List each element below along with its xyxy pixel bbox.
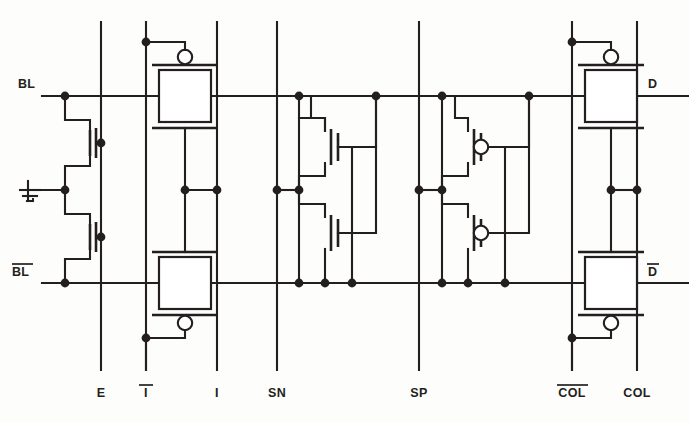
- iso-bot-channel-box: [159, 257, 211, 309]
- labels-layer: BL BL D D E I I SN SP COL COL: [12, 77, 659, 400]
- nmos-upper-top-lead: [311, 96, 325, 131]
- pmos-upper-top-lead: [455, 96, 468, 131]
- iso-top-gate-lead-Ibar: [146, 42, 185, 50]
- circuit-canvas: BL BL D D E I I SN SP COL COL: [0, 0, 689, 423]
- junction-dot: [438, 279, 447, 288]
- iso-bot-gate-lead-Ibar: [146, 330, 185, 370]
- junction-dot: [213, 186, 222, 195]
- label-SN: SN: [268, 386, 286, 400]
- label-COL: COL: [623, 386, 650, 400]
- nmos-latch-block: [273, 92, 381, 288]
- pmos-upper-drain-lead: [489, 147, 505, 283]
- label-D-bar: D: [648, 265, 657, 279]
- pmos-upper-gate-lead: [442, 163, 468, 190]
- junction-dot: [295, 92, 304, 101]
- junction-dot: [415, 186, 424, 195]
- label-SP: SP: [410, 386, 427, 400]
- junction-dot: [568, 38, 577, 47]
- col-bot-inversion-bubble: [604, 316, 618, 330]
- iso-bot-inversion-bubble: [178, 316, 192, 330]
- nmos-upper-drain-lead: [338, 147, 352, 283]
- eq-upper-drain-lead: [65, 96, 90, 134]
- junction-dot: [321, 279, 330, 288]
- nmos-lower-drain-lead: [338, 96, 376, 233]
- label-I-bar: I: [144, 386, 148, 400]
- label-D: D: [648, 77, 657, 91]
- schematic-figure: BL BL D D E I I SN SP COL COL: [0, 0, 689, 423]
- column-gate-bottom: [568, 190, 644, 370]
- isolation-gate-bottom: [142, 190, 218, 370]
- nmos-upper-source-stub: [299, 118, 325, 131]
- col-bot-gate-lead-COLbar: [572, 330, 611, 370]
- junction-dot: [438, 92, 447, 101]
- junction-dot: [142, 334, 151, 343]
- bit-lines: [42, 96, 689, 283]
- isolation-gate-top: [142, 38, 222, 195]
- junction-dot: [633, 186, 642, 195]
- label-BL-bar: BL: [12, 265, 29, 279]
- junction-dot: [142, 38, 151, 47]
- junction-dot: [501, 279, 510, 288]
- junction-dot: [295, 279, 304, 288]
- junction-dot: [97, 233, 106, 242]
- column-gate-top: [568, 38, 644, 195]
- pmos-upper-inversion-bubble: [474, 140, 488, 154]
- pmos-lower-inversion-bubble: [474, 226, 488, 240]
- col-bot-channel-box: [585, 257, 637, 309]
- junction-dot: [273, 186, 282, 195]
- junction-dot: [61, 92, 70, 101]
- junction-dot: [61, 279, 70, 288]
- junction-dot: [348, 279, 357, 288]
- nmos-upper-gate-lead: [299, 163, 325, 190]
- eq-upper-source-lead: [65, 152, 90, 190]
- pmos-lower-gate-lead: [442, 190, 468, 217]
- label-COL-bar: COL: [558, 386, 585, 400]
- label-BL: BL: [18, 77, 35, 91]
- pmos-lower-drain-lead: [489, 96, 529, 233]
- pmos-upper-bl-link: [489, 96, 529, 147]
- junction-dot: [568, 334, 577, 343]
- iso-top-inversion-bubble: [178, 50, 192, 64]
- label-E: E: [97, 386, 106, 400]
- nmos-lower-gate-lead: [299, 190, 325, 217]
- eq-lower-drain-lead: [65, 190, 90, 226]
- eq-lower-source-lead: [65, 246, 90, 283]
- iso-top-channel-box: [159, 70, 211, 122]
- label-I: I: [215, 386, 219, 400]
- equalizer-block: [20, 92, 105, 288]
- pmos-latch-block: [415, 92, 534, 288]
- col-top-inversion-bubble: [604, 50, 618, 64]
- col-top-gate-lead-COLbar: [572, 42, 611, 50]
- col-top-channel-box: [585, 70, 637, 122]
- junction-dot: [464, 279, 473, 288]
- junction-dot: [97, 139, 106, 148]
